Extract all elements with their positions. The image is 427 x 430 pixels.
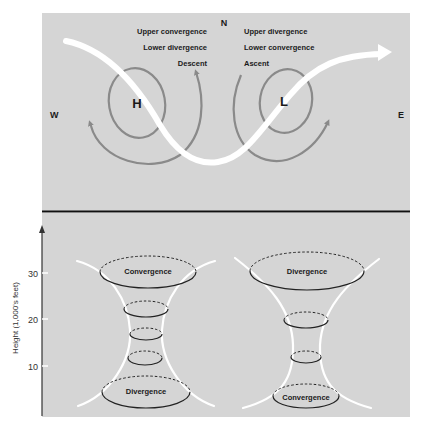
high-column-top-label: Convergence — [124, 267, 172, 276]
profile-panel-background — [42, 213, 410, 417]
height-axis-label: Height (1,000's feet) — [11, 282, 20, 354]
tick-30: 30 — [28, 269, 38, 279]
map-panel-background — [42, 13, 410, 211]
high-label-upper: Upper convergence — [137, 27, 207, 36]
height-axis: 30 20 10 Height (1,000's feet) — [11, 225, 48, 416]
diagram-canvas: N W E H L Upper convergence Lower diverg… — [0, 0, 427, 430]
low-label-upper: Upper divergence — [244, 27, 307, 36]
map-panel: N W E H L Upper convergence Lower diverg… — [42, 13, 410, 211]
high-pressure-symbol: H — [132, 96, 141, 111]
low-column-top-label: Divergence — [287, 267, 327, 276]
tick-20: 20 — [28, 315, 38, 325]
low-label-lower: Lower convergence — [244, 43, 314, 52]
compass-west: W — [50, 110, 59, 120]
profile-panel: 30 20 10 Height (1,000's feet) Conver — [11, 213, 410, 417]
high-column-bottom-label: Divergence — [126, 387, 166, 396]
tick-10: 10 — [28, 362, 38, 372]
low-pressure-symbol: L — [280, 94, 288, 109]
low-column-bottom-label: Convergence — [282, 393, 330, 402]
high-label-vertical: Descent — [178, 59, 208, 68]
low-label-vertical: Ascent — [244, 59, 270, 68]
high-label-lower: Lower divergence — [143, 43, 207, 52]
compass-north: N — [221, 18, 228, 28]
compass-east: E — [398, 110, 404, 120]
